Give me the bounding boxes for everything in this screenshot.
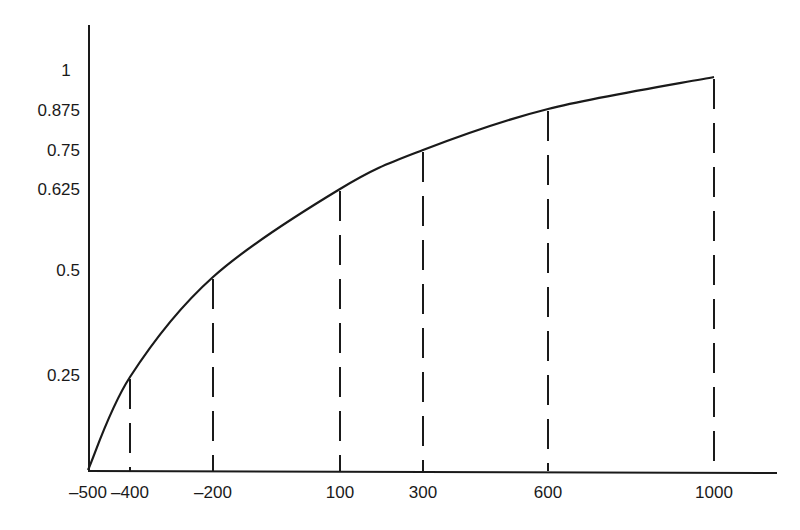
x-tick-label: 100 xyxy=(326,483,354,502)
y-tick-label: 0.25 xyxy=(47,366,80,385)
x-tick-label: –500 xyxy=(69,483,107,502)
y-tick-label: 0.625 xyxy=(37,180,80,199)
y-tick-label: 0.5 xyxy=(56,261,80,280)
x-axis-tick-labels: –500–400–2001003006001000 xyxy=(69,483,733,502)
dashed-guide-lines xyxy=(130,79,714,471)
data-curve xyxy=(88,77,714,470)
x-tick-label: 1000 xyxy=(695,483,733,502)
x-tick-label: 300 xyxy=(409,483,437,502)
x-tick-label: 600 xyxy=(534,483,562,502)
y-axis-tick-labels: 10.8750.750.6250.50.25 xyxy=(37,61,80,385)
x-axis xyxy=(88,471,777,473)
x-tick-label: –400 xyxy=(111,483,149,502)
x-tick-label: –200 xyxy=(194,483,232,502)
curve-chart: 10.8750.750.6250.50.25 –500–400–20010030… xyxy=(0,0,800,530)
y-tick-label: 0.75 xyxy=(47,141,80,160)
y-tick-label: 1 xyxy=(61,61,70,80)
y-tick-label: 0.875 xyxy=(37,101,80,120)
